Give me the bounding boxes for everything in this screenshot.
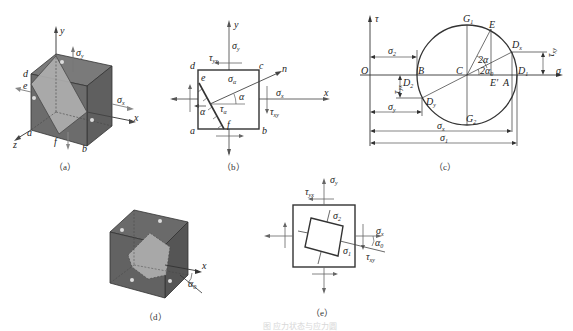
axis-label-y: y [60,26,64,36]
element-diagram-b [150,0,340,180]
point-C: C [456,66,463,76]
point-O: O [361,66,368,76]
caption-a: （a） [54,160,76,173]
tau-xy-label: τxy [270,107,279,118]
cube-diagram-d [70,175,220,331]
point-c: c [259,61,263,71]
tau-xy-dim-label: τxy [546,48,557,57]
point-E: E [489,20,495,30]
point-f: f [54,137,57,147]
panel-e-principal-element: σy τyx σ2 σx σ1 α0 τxy （e） [260,170,400,320]
axis-label-y: y [234,20,238,30]
point-Dy: Dy [426,97,436,108]
point-a: a [190,126,195,136]
alpha-label-2: α [200,107,205,117]
alpha0-label: α0 [188,279,196,290]
sigma-x-label: σx [376,226,384,237]
panel-b-plane-stress-element: y σy τyx d c e σα n α σx x α τα τxy f a … [150,0,340,180]
point-e: e [23,81,27,91]
point-G2: G2 [466,114,476,125]
axis-label-z: z [13,140,17,150]
point-b: b [82,144,87,154]
caption-b: （b） [222,160,245,173]
panel-c-mohr-circle: τ G1 E Dx σ2 2α τxy O B C 2α0 D1 σ E′ A … [330,0,573,180]
tau-alpha-label: τα [220,104,227,115]
sigma1-label: σ1 [343,246,351,257]
normal-label-n: n [282,64,287,74]
point-D1: D1 [518,66,528,77]
sigma1-dim-label: σ1 [440,133,448,144]
panel-a-3d-stress-element: y σy d e σx x a z f b （a） [0,0,160,180]
sigma-y-label: σy [232,41,240,52]
point-a: a [27,128,32,138]
sigma-x-label: σx [117,95,125,106]
tau-xy-label: τxy [366,252,375,263]
point-Dx: Dx [512,40,522,51]
two-alpha0-label: 2α0 [480,66,493,77]
alpha-angle-label: α [239,92,244,102]
point-d: d [23,69,28,79]
axis-label-x: x [324,88,328,98]
sigma2-dim-label: σ2 [388,46,396,57]
point-d: d [190,61,195,71]
point-B: B [418,66,424,76]
point-A: A [503,78,509,88]
point-G1: G1 [463,14,473,25]
panel-d-principal-cube: x α0 （d） [70,175,220,331]
sigma-x-label: σx [276,88,284,99]
caption-d: （d） [144,310,167,323]
two-alpha-label: 2α [478,55,488,65]
axis-label-sigma: σ [556,66,561,76]
sigma-y-dim-label: σy [388,102,396,113]
point-E-prime: E′ [490,78,498,88]
tau-yx-label: τyx [209,53,218,64]
caption-e: （e） [311,306,333,319]
caption-c: （c） [434,160,456,173]
point-b: b [262,126,267,136]
figure-caption: 图 应力状态与应力圆 [263,320,337,331]
sigma-y-label: σy [76,48,84,59]
axis-label-x: x [202,261,206,271]
sigma-x-dim-label: σx [437,121,445,132]
point-f: f [227,120,230,130]
alpha0-label: α0 [375,238,383,249]
tau-yx-dim-label: τyx [392,85,403,94]
sigma-y-label: σy [330,175,338,186]
axis-label-x: x [134,113,138,123]
tau-yx-label: τyx [305,187,314,198]
point-e: e [201,73,205,83]
axis-label-tau: τ [375,14,379,24]
point-D2: D2 [403,78,413,89]
sigma2-label: σ2 [333,211,341,222]
mohr-circle-diagram [330,0,573,180]
sigma-alpha-label: σα [228,74,236,85]
